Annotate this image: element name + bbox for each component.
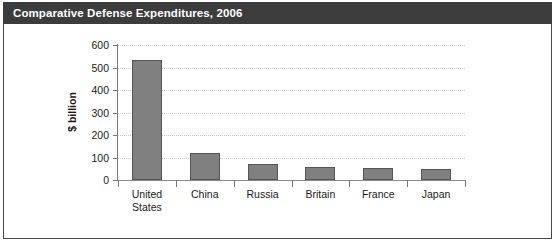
y-axis-tick-mark — [113, 135, 118, 136]
x-axis-category-label: Britain — [306, 188, 336, 201]
x-axis-tick-mark — [292, 180, 293, 187]
gridline — [118, 113, 465, 114]
x-axis-tick-mark — [234, 180, 235, 187]
x-axis-category-label: United States — [132, 188, 162, 213]
x-axis-tick-mark — [118, 180, 119, 187]
y-axis-tick-label: 500 — [91, 62, 109, 74]
x-axis-category-label: China — [191, 188, 218, 201]
chart-title-bar: Comparative Defense Expenditures, 2006 — [3, 2, 552, 24]
x-axis-tick-mark — [407, 180, 408, 187]
y-axis-tick-label: 600 — [91, 39, 109, 51]
y-axis-title: $ billion — [66, 92, 78, 132]
gridline — [118, 90, 465, 91]
y-axis-tick-label: 300 — [91, 107, 109, 119]
x-axis-tick-mark — [176, 180, 177, 187]
y-axis-tick-mark — [113, 113, 118, 114]
page-title: Comparative Defense Expenditures, 2006 — [4, 7, 242, 19]
gridline — [118, 45, 465, 46]
bar-russia — [248, 164, 278, 180]
bar-united-states — [132, 60, 162, 180]
x-axis-category-label: France — [362, 188, 395, 201]
y-axis-tick-mark — [113, 45, 118, 46]
bar-japan — [421, 169, 451, 180]
gridline — [118, 68, 465, 69]
y-axis-tick-label: 100 — [91, 152, 109, 164]
y-axis-tick-mark — [113, 158, 118, 159]
x-axis-tick-mark — [349, 180, 350, 187]
y-axis-tick-label: 200 — [91, 129, 109, 141]
x-axis-tick-mark — [465, 180, 466, 187]
y-axis-tick-label: 400 — [91, 84, 109, 96]
y-axis-tick-label: 0 — [103, 174, 109, 186]
y-axis-tick-mark — [113, 90, 118, 91]
gridline — [118, 135, 465, 136]
plot-area: 0100200300400500600 — [118, 45, 465, 180]
y-axis-tick-mark — [113, 68, 118, 69]
x-axis-category-label: Russia — [247, 188, 279, 201]
gridline — [118, 158, 465, 159]
bar-china — [190, 153, 220, 180]
bar-britain — [305, 167, 335, 181]
chart-figure: Comparative Defense Expenditures, 2006 $… — [0, 0, 555, 243]
x-axis-category-label: Japan — [422, 188, 451, 201]
bar-france — [363, 168, 393, 180]
